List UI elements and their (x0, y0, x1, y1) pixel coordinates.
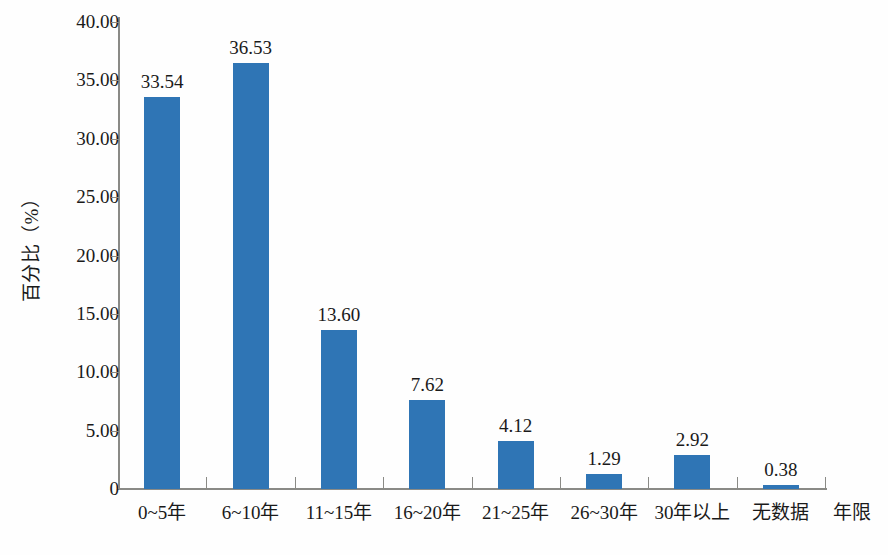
y-tick-mark (111, 431, 119, 432)
x-axis-line (118, 488, 827, 490)
y-tick-label: 25.00 (15, 186, 119, 208)
bar (763, 485, 799, 489)
x-tick-mark (560, 477, 561, 489)
bar-value-label: 33.54 (117, 71, 207, 93)
y-tick-label: 35.00 (15, 69, 119, 91)
bar-value-label: 7.62 (382, 374, 472, 396)
x-tick-mark (118, 477, 119, 489)
bar (233, 63, 269, 489)
bar (586, 474, 622, 489)
x-tick-mark (383, 477, 384, 489)
bar-value-label: 4.12 (471, 415, 561, 437)
y-tick-label: 0 (15, 478, 119, 500)
bar-value-label: 2.92 (647, 429, 737, 451)
y-tick-mark (111, 22, 119, 23)
bar-value-label: 13.60 (294, 304, 384, 326)
y-tick-mark (111, 139, 119, 140)
bar (498, 441, 534, 489)
x-tick-mark (472, 477, 473, 489)
y-tick-label: 5.00 (15, 420, 119, 442)
bar (321, 330, 357, 489)
x-tick-mark (206, 477, 207, 489)
x-axis-title: 年限 (833, 497, 888, 524)
y-tick-label: 30.00 (15, 128, 119, 150)
bar (674, 455, 710, 489)
y-tick-label: 20.00 (15, 245, 119, 267)
bar-chart: 百分比（%） 05.0010.0015.0020.0025.0030.0035.… (0, 0, 888, 555)
x-tick-mark (295, 477, 296, 489)
x-axis-label: 无数据 (726, 497, 836, 524)
bar (409, 400, 445, 489)
x-tick-mark (648, 477, 649, 489)
y-tick-mark (111, 314, 119, 315)
y-tick-label: 15.00 (15, 303, 119, 325)
y-tick-mark (111, 372, 119, 373)
y-tick-mark (111, 197, 119, 198)
bar-value-label: 1.29 (559, 448, 649, 470)
y-tick-label: 10.00 (15, 361, 119, 383)
bar (144, 97, 180, 489)
y-tick-mark (111, 256, 119, 257)
bar-value-label: 36.53 (206, 37, 296, 59)
bar-value-label: 0.38 (736, 459, 826, 481)
y-tick-label: 40.00 (15, 11, 119, 33)
